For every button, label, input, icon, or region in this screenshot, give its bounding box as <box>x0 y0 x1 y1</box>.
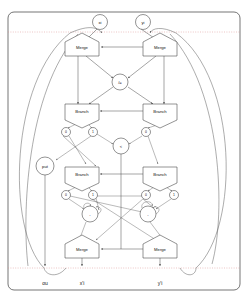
node-port-ll-1[interactable]: 1 <box>89 191 98 200</box>
node-label-port-ll-0: 0 <box>65 193 67 197</box>
edge-port-ul0-to-branch-ll <box>69 136 86 164</box>
edge-port-ur0-to-less <box>129 136 142 144</box>
feedback-arc-right-inner <box>170 34 219 264</box>
node-label-port-lr-1: 1 <box>173 193 175 197</box>
node-op-less-than[interactable]: < <box>113 138 129 154</box>
node-branch-upper-left[interactable]: Branch <box>65 104 99 128</box>
node-label-port-ul-1: 1 <box>92 130 94 134</box>
node-op-put[interactable]: put <box>36 157 54 175</box>
node-label-yi: yi <box>141 20 144 25</box>
node-port-ul-0[interactable]: 0 <box>62 128 71 137</box>
node-merge-top-left[interactable]: Merge <box>65 33 99 56</box>
edge-port-ul0-cross <box>63 136 96 166</box>
node-label-merge-bottom-right: Merge <box>154 247 167 252</box>
bottom-hook-right <box>180 268 196 275</box>
node-port-ll-0[interactable]: 0 <box>62 191 71 200</box>
node-port-lr-1[interactable]: 1 <box>170 191 179 200</box>
edge-neq-to-branch-ur <box>128 87 153 104</box>
feedback-arc-left-inner <box>26 34 78 266</box>
node-merge-bottom-left[interactable]: Merge <box>65 235 99 258</box>
edge-cross-ll0-to-right <box>70 196 142 212</box>
node-label-merge-top-right: Merge <box>154 45 167 50</box>
node-label-branch-upper-left: Branch <box>75 109 89 114</box>
node-merge-bottom-right[interactable]: Merge <box>143 235 177 258</box>
edge-merge-tl-to-neq <box>86 56 113 78</box>
node-label-branch-lower-right: Branch <box>153 172 167 177</box>
node-op-neq[interactable]: /= <box>112 74 128 90</box>
diagram-canvas: xi yi Merge Merge /= Branch Branch 0 1 0 <box>0 0 248 302</box>
node-branch-upper-right[interactable]: Branch <box>143 104 177 128</box>
node-label-merge-bottom-left: Merge <box>76 247 89 252</box>
edge-port-ll0-to-sub-left <box>69 199 84 209</box>
edge-cross-lr0-to-merge-bl <box>96 198 144 240</box>
edge-neq-to-branch-ul <box>89 87 113 104</box>
node-label-port-ul-0: 0 <box>65 130 67 134</box>
edge-port-ll1-to-sub-left <box>96 198 99 210</box>
node-port-ul-1[interactable]: 1 <box>89 128 98 137</box>
edge-port-ur0-to-branch-lr <box>148 136 158 164</box>
node-branch-lower-left[interactable]: Branch <box>65 167 99 191</box>
feedback-arc-left-outer <box>19 33 70 268</box>
node-label-port-ur-0: 0 <box>145 130 147 134</box>
node-label-put: put <box>42 164 49 169</box>
edge-merge-tr-to-neq <box>128 56 156 78</box>
dataflow-graph-svg: xi yi Merge Merge /= Branch Branch 0 1 0 <box>0 0 248 302</box>
node-label-branch-upper-right: Branch <box>153 109 167 114</box>
node-label-merge-top-left: Merge <box>76 45 89 50</box>
node-label-port-ll-1: 1 <box>92 193 94 197</box>
output-label-x-prime: x'i <box>80 280 85 286</box>
node-op-sub-left[interactable]: - <box>82 206 98 222</box>
node-label-port-lr-0: 0 <box>145 193 147 197</box>
node-label-neq: /= <box>118 80 122 85</box>
bottom-hook-left <box>44 268 66 275</box>
node-input-yi[interactable]: yi <box>136 15 151 30</box>
edge-port-lr1-to-sub-right <box>156 199 171 209</box>
node-label-xi: xi <box>98 20 101 25</box>
edge-port-ul1-to-less <box>97 134 113 144</box>
node-branch-lower-right[interactable]: Branch <box>143 167 177 191</box>
output-label-y-prime: y'i <box>158 280 163 286</box>
output-label-ou: ou <box>42 280 48 286</box>
node-label-branch-lower-left: Branch <box>75 172 89 177</box>
feedback-arc-right-outer <box>176 33 226 268</box>
node-input-xi[interactable]: xi <box>93 15 108 30</box>
node-port-ur-0[interactable]: 0 <box>142 128 151 137</box>
node-op-sub-right[interactable]: - <box>140 206 156 222</box>
feedback-arc-right-head <box>150 28 176 33</box>
node-port-lr-0[interactable]: 0 <box>142 191 151 200</box>
